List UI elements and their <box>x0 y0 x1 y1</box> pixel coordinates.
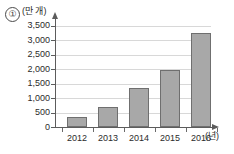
y-axis-tick-label: 2,000 <box>4 65 50 74</box>
gridline <box>56 26 211 27</box>
gridline <box>56 84 211 85</box>
y-axis-tick-label: 2,500 <box>4 50 50 59</box>
gridline <box>56 69 211 70</box>
x-axis-tick-mark <box>155 128 156 132</box>
x-axis-tick-mark <box>217 128 218 132</box>
y-axis-tick-label: 500 <box>4 108 50 117</box>
y-axis-tick-label: 0 <box>4 123 50 132</box>
bar-2012 <box>67 117 87 127</box>
y-axis-tick-mark <box>51 98 56 99</box>
gridline <box>56 40 211 41</box>
x-axis-tick-label-2016: 2016 <box>185 133 217 143</box>
y-axis-tick-labels: 05001,0001,5002,0002,5003,0003,500 <box>2 0 50 154</box>
plot-area <box>56 21 211 127</box>
y-axis-tick-mark <box>51 113 56 114</box>
gridline <box>56 55 211 56</box>
bar-2013 <box>98 107 118 127</box>
y-axis-tick-label: 3,500 <box>4 21 50 30</box>
x-axis-line <box>55 127 213 128</box>
y-axis-tick-mark <box>51 40 56 41</box>
bar-2014 <box>129 88 149 127</box>
y-axis-arrow-icon <box>52 12 58 19</box>
y-axis-tick-mark <box>51 69 56 70</box>
x-axis-tick-label-2014: 2014 <box>123 133 155 143</box>
y-axis-tick-mark <box>51 55 56 56</box>
x-axis-tick-mark <box>186 128 187 132</box>
x-axis-tick-label-2013: 2013 <box>92 133 124 143</box>
y-axis-tick-mark <box>51 127 56 128</box>
x-axis-tick-mark <box>62 128 63 132</box>
x-axis-tick-mark <box>124 128 125 132</box>
x-axis-tick-label-2015: 2015 <box>154 133 186 143</box>
y-axis-tick-mark <box>51 84 56 85</box>
y-axis-tick-label: 3,000 <box>4 36 50 45</box>
y-axis-tick-mark <box>51 26 56 27</box>
y-axis-tick-label: 1,000 <box>4 94 50 103</box>
y-axis-tick-label: 1,500 <box>4 79 50 88</box>
x-axis-tick-mark <box>93 128 94 132</box>
x-axis-arrow-icon <box>212 124 219 130</box>
x-axis-tick-label-2012: 2012 <box>61 133 93 143</box>
bar-2015 <box>160 70 180 127</box>
bar-chart-figure: ① (만 개) (년) 05001,0001,5002,0002,5003,00… <box>0 0 234 154</box>
bar-2016 <box>191 33 211 127</box>
